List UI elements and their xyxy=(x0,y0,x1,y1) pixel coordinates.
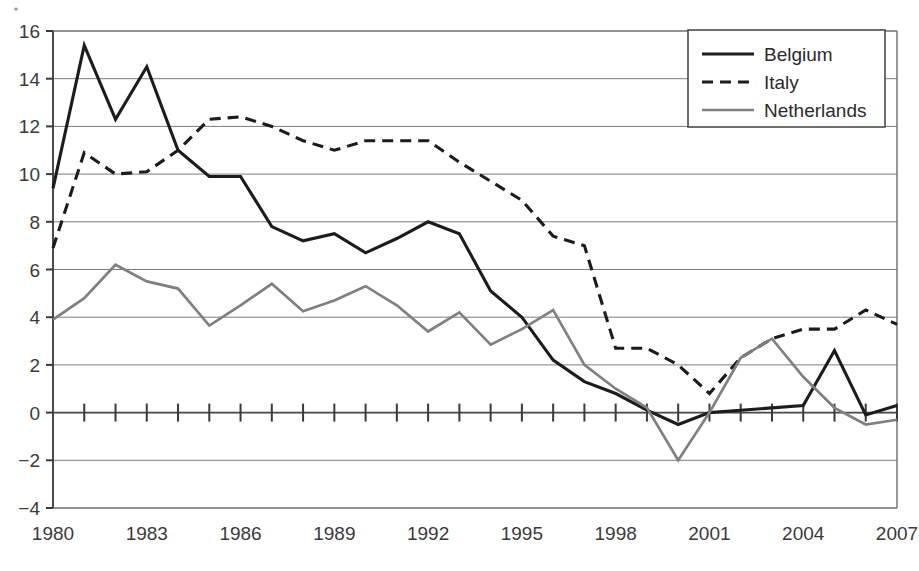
y-axis-label: 12 xyxy=(19,116,40,137)
x-axis-label: 2007 xyxy=(876,523,918,544)
y-axis-label: 6 xyxy=(29,260,40,281)
x-axis-label: 1998 xyxy=(595,523,637,544)
legend-label-italy: Italy xyxy=(764,72,799,93)
x-axis-label: 2004 xyxy=(782,523,825,544)
legend-label-netherlands: Netherlands xyxy=(764,100,866,121)
y-axis-label: 10 xyxy=(19,164,40,185)
line-chart: 1614121086420−2−4 1980198319861989199219… xyxy=(0,0,919,571)
y-axis-label: 16 xyxy=(19,21,40,42)
chart-canvas: 1614121086420−2−4 1980198319861989199219… xyxy=(0,0,919,571)
y-axis-label: 4 xyxy=(29,307,40,328)
x-axis-label: 1989 xyxy=(313,523,355,544)
chart-legend[interactable]: BelgiumItalyNetherlands xyxy=(688,30,885,127)
x-axis-label: 1983 xyxy=(126,523,168,544)
legend-label-belgium: Belgium xyxy=(764,44,833,65)
x-axis-label: 1980 xyxy=(32,523,74,544)
y-axis-label: −4 xyxy=(18,498,40,519)
y-axis-label: 2 xyxy=(29,355,40,376)
y-axis-label: 14 xyxy=(19,69,41,90)
y-axis-label: 0 xyxy=(29,403,40,424)
x-axis-label: 2001 xyxy=(688,523,730,544)
y-axis-label: 8 xyxy=(29,212,40,233)
x-axis-label: 1986 xyxy=(219,523,261,544)
scan-speck xyxy=(14,7,17,10)
x-axis-label: 1992 xyxy=(407,523,449,544)
x-axis-label: 1995 xyxy=(501,523,543,544)
y-axis-label: −2 xyxy=(18,450,40,471)
